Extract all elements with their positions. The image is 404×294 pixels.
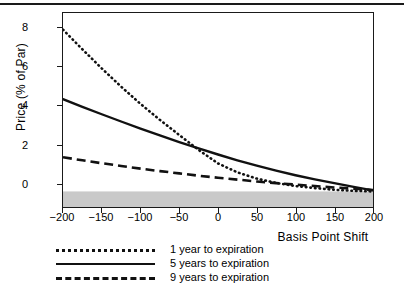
x-tick-label-200: 200: [351, 212, 397, 223]
legend-item-5-years: 5 years to expiration: [56, 257, 356, 271]
legend-label-9-years: 9 years to expiration: [170, 271, 269, 284]
x-tick-mark-50: [257, 208, 258, 213]
legend-label-5-years: 5 years to expiration: [170, 257, 269, 270]
x-tick-mark-150: [335, 208, 336, 213]
x-tick-mark-0: [218, 208, 219, 213]
x-tick-mark-100: [296, 208, 297, 213]
plot-area: [62, 12, 374, 208]
x-tick-mark-neg100: [140, 208, 141, 213]
y-tick-label-8: 8: [0, 22, 28, 32]
y-tick-label-0: 0: [0, 179, 28, 189]
x-tick-mark-200: [373, 208, 374, 213]
chart-figure: Price (% of Par) Basis Point Shift 8 6 4…: [0, 0, 404, 294]
chart-legend: 1 year to expiration 5 years to expirati…: [56, 243, 356, 285]
y-tick-label-6: 6: [0, 61, 28, 71]
x-tick-mark-neg50: [179, 208, 180, 213]
legend-swatch-dashed-icon: [56, 277, 155, 280]
curves-layer: [63, 13, 373, 207]
negative-price-shaded-band: [63, 191, 373, 207]
legend-swatch-dotted-icon: [56, 249, 155, 252]
x-tick-mark-neg150: [101, 208, 102, 213]
series-line-9-years: [63, 157, 373, 190]
legend-label-1-year: 1 year to expiration: [170, 243, 264, 256]
x-tick-mark-neg200: [62, 208, 63, 213]
y-tick-label-4: 4: [0, 100, 28, 110]
x-axis-title: Basis Point Shift: [258, 230, 388, 244]
legend-item-1-year: 1 year to expiration: [56, 243, 356, 257]
series-line-1-year: [63, 30, 373, 192]
y-tick-label-2: 2: [0, 140, 28, 150]
legend-item-9-years: 9 years to expiration: [56, 271, 356, 285]
legend-swatch-solid-icon: [56, 263, 155, 265]
